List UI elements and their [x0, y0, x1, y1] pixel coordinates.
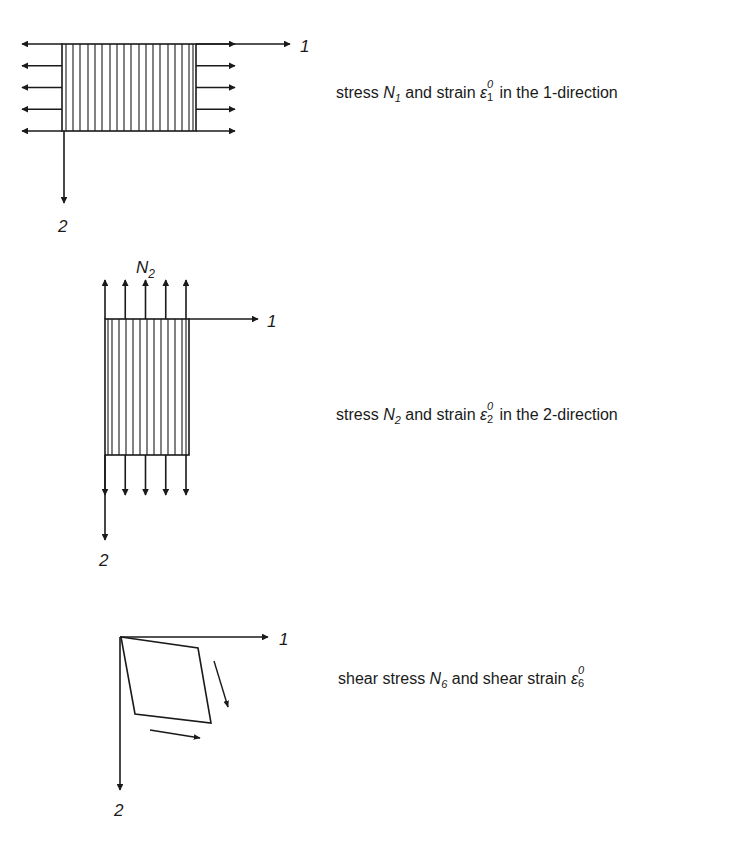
axis-2-label: 2	[113, 801, 124, 820]
panel-normal-2: 1 2 N2	[98, 258, 276, 570]
axis-1-label: 1	[279, 630, 288, 649]
right-force-arrows	[196, 44, 235, 131]
sheared-element	[121, 637, 211, 723]
axis-1-label: 1	[267, 312, 276, 331]
caption-text: stress	[336, 406, 383, 423]
stress-symbol: N	[383, 406, 395, 423]
top-force-arrows	[105, 280, 186, 319]
left-force-arrows	[22, 44, 62, 131]
caption-text: and strain	[401, 406, 480, 423]
bottom-force-arrows	[105, 455, 186, 495]
hatched-lamina	[66, 44, 193, 131]
strain-superscript: 0	[578, 665, 584, 676]
axis-1-label: 1	[300, 37, 309, 56]
strain-subscript: 2	[487, 414, 493, 425]
caption-text: and strain	[401, 84, 480, 101]
stress-symbol: N	[383, 84, 395, 101]
axis-2-label: 2	[57, 217, 68, 236]
strain-subscript: 1	[487, 92, 493, 103]
stress-symbol: N	[430, 670, 442, 687]
caption-text: shear stress	[338, 670, 430, 687]
strain-subscript: 6	[578, 678, 584, 689]
caption-text: in the 1-direction	[495, 84, 618, 101]
caption-text: and shear strain	[447, 670, 571, 687]
strain-superscript: 0	[487, 79, 493, 90]
strain-symbol: ε	[571, 670, 578, 687]
shear-arrow-vertical	[214, 661, 228, 707]
axis-2-label: 2	[98, 551, 109, 570]
caption-normal-1: stress N1 and strain ε01 in the 1-direct…	[336, 83, 618, 108]
caption-shear-6: shear stress N6 and shear strain ε06	[338, 669, 586, 694]
caption-normal-2: stress N2 and strain ε02 in the 2-direct…	[336, 405, 618, 430]
n2-label: N2	[136, 258, 155, 281]
panel-normal-1: 1 2	[22, 37, 309, 236]
caption-text: stress	[336, 84, 383, 101]
hatched-lamina	[108, 319, 186, 455]
caption-text: in the 2-direction	[495, 406, 618, 423]
strain-symbol: ε	[480, 406, 487, 423]
shear-arrow-horizontal	[150, 730, 200, 738]
strain-symbol: ε	[480, 84, 487, 101]
panel-shear-6: 1 2	[113, 630, 288, 820]
lamina-outline	[62, 44, 196, 131]
strain-superscript: 0	[487, 401, 493, 412]
